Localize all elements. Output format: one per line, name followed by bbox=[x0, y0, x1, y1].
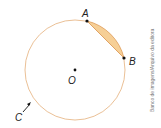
image-credit: Banco de imagens/Arquivo da editora bbox=[149, 28, 155, 112]
point-o bbox=[74, 69, 77, 72]
label-o: O bbox=[68, 75, 76, 86]
point-b bbox=[122, 56, 125, 59]
arrow-c-head-icon bbox=[27, 102, 31, 106]
label-c: C bbox=[15, 112, 23, 123]
circle-diagram: A B O C Banco de imagens/Arquivo da edit… bbox=[0, 0, 161, 128]
point-a bbox=[85, 19, 88, 22]
chord-ab bbox=[87, 21, 124, 58]
label-b: B bbox=[129, 56, 136, 67]
label-a: A bbox=[81, 8, 89, 19]
